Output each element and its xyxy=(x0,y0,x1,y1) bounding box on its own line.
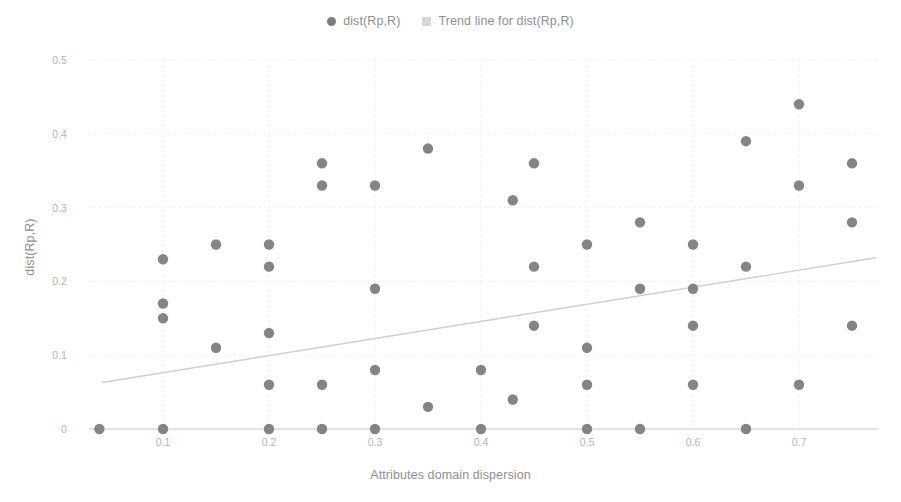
data-point[interactable] xyxy=(370,180,380,190)
y-tick-label: 0.5 xyxy=(52,54,67,66)
data-point[interactable] xyxy=(508,195,518,205)
data-point[interactable] xyxy=(476,365,486,375)
data-point[interactable] xyxy=(264,424,274,434)
y-tick-label: 0.4 xyxy=(52,128,67,140)
x-tick-label: 0.3 xyxy=(368,436,383,448)
data-point[interactable] xyxy=(529,320,539,330)
data-point[interactable] xyxy=(582,424,592,434)
x-tick-label: 0.6 xyxy=(686,436,701,448)
data-point[interactable] xyxy=(317,380,327,390)
data-point[interactable] xyxy=(264,261,274,271)
x-tick-label: 0.4 xyxy=(474,436,489,448)
trend-line xyxy=(102,258,876,383)
data-point[interactable] xyxy=(264,239,274,249)
data-point[interactable] xyxy=(582,380,592,390)
y-tick-label: 0 xyxy=(61,423,67,435)
data-point[interactable] xyxy=(741,261,751,271)
data-points xyxy=(94,99,857,434)
data-point[interactable] xyxy=(847,217,857,227)
y-tick-label: 0.3 xyxy=(52,202,67,214)
x-axis-title: Attributes domain dispersion xyxy=(0,468,901,482)
data-point[interactable] xyxy=(582,343,592,353)
trend-line-path xyxy=(102,258,876,383)
data-point[interactable] xyxy=(317,158,327,168)
plot-canvas: 0.10.20.30.40.50.60.7 00.10.20.30.40.5 xyxy=(0,0,901,502)
data-point[interactable] xyxy=(794,180,804,190)
data-point[interactable] xyxy=(794,380,804,390)
data-point[interactable] xyxy=(211,343,221,353)
data-point[interactable] xyxy=(741,424,751,434)
data-point[interactable] xyxy=(370,424,380,434)
data-point[interactable] xyxy=(158,313,168,323)
data-point[interactable] xyxy=(741,136,751,146)
data-point[interactable] xyxy=(158,424,168,434)
y-tick-label: 0.2 xyxy=(52,275,67,287)
data-point[interactable] xyxy=(635,217,645,227)
data-point[interactable] xyxy=(688,320,698,330)
data-point[interactable] xyxy=(264,328,274,338)
y-tick-label: 0.1 xyxy=(52,349,67,361)
data-point[interactable] xyxy=(317,180,327,190)
data-point[interactable] xyxy=(476,424,486,434)
data-point[interactable] xyxy=(264,380,274,390)
data-point[interactable] xyxy=(794,99,804,109)
data-point[interactable] xyxy=(423,143,433,153)
data-point[interactable] xyxy=(158,298,168,308)
x-tick-labels: 0.10.20.30.40.50.60.7 xyxy=(156,436,807,448)
data-point[interactable] xyxy=(635,284,645,294)
y-axis-title: dist(Rp,R) xyxy=(23,197,37,297)
y-gridlines xyxy=(89,60,879,355)
data-point[interactable] xyxy=(847,320,857,330)
x-tick-label: 0.2 xyxy=(262,436,277,448)
data-point[interactable] xyxy=(847,158,857,168)
scatter-chart: dist(Rp,R) Trend line for dist(Rp,R) 0.1… xyxy=(0,0,901,502)
data-point[interactable] xyxy=(211,239,221,249)
data-point[interactable] xyxy=(370,284,380,294)
data-point[interactable] xyxy=(423,402,433,412)
x-tick-label: 0.7 xyxy=(792,436,807,448)
data-point[interactable] xyxy=(688,284,698,294)
data-point[interactable] xyxy=(158,254,168,264)
data-point[interactable] xyxy=(688,239,698,249)
y-tick-labels: 00.10.20.30.40.5 xyxy=(52,54,67,435)
data-point[interactable] xyxy=(370,365,380,375)
data-point[interactable] xyxy=(317,424,327,434)
data-point[interactable] xyxy=(529,261,539,271)
data-point[interactable] xyxy=(529,158,539,168)
data-point[interactable] xyxy=(94,424,104,434)
x-tick-label: 0.5 xyxy=(580,436,595,448)
data-point[interactable] xyxy=(688,380,698,390)
data-point[interactable] xyxy=(635,424,645,434)
data-point[interactable] xyxy=(508,394,518,404)
data-point[interactable] xyxy=(582,239,592,249)
x-tick-label: 0.1 xyxy=(156,436,171,448)
